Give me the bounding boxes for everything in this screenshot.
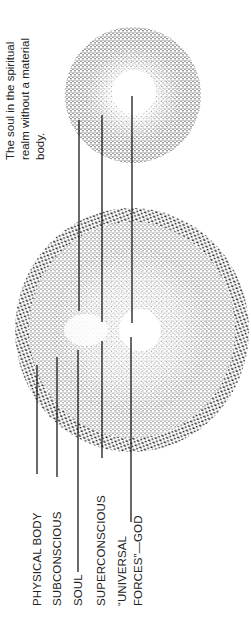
caption: The soul in the spiritual realm without … — [3, 38, 48, 160]
spirit-soul-sphere — [65, 27, 201, 163]
caption-line-3: body. — [33, 38, 48, 160]
label-soul: SOUL — [71, 574, 86, 606]
label-universal-forces-line1: “UNIVERSAL — [115, 536, 130, 606]
label-physical-body: PHYSICAL BODY — [30, 512, 45, 606]
label-superconscious: SUPERCONSCIOUS — [94, 495, 109, 606]
label-universal-forces-line2: FORCES”—GOD — [131, 515, 146, 606]
caption-line-2: realm without a material — [18, 38, 33, 160]
label-subconscious: SUBCONSCIOUS — [50, 512, 65, 607]
caption-line-1: The soul in the spiritual — [3, 38, 18, 160]
